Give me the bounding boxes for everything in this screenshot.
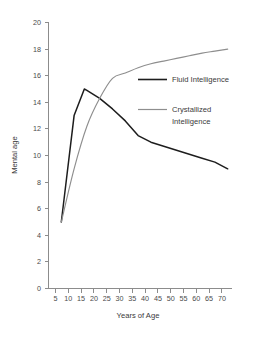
y-tick-label: 10 [33,151,41,160]
figure-container: 20 18 16 14 12 10 8 6 4 2 0 [0,0,267,340]
x-tick-label: 65 [205,294,213,303]
x-tick-label: 5 [54,294,58,303]
y-tick-label: 2 [37,257,41,266]
y-tick-label: 6 [37,204,41,213]
y-tick-label: 18 [33,45,41,54]
x-tick-label: 55 [180,294,188,303]
y-axis-title: Mental age [10,136,19,174]
x-tick-label: 40 [141,294,149,303]
y-tick-label: 4 [37,231,41,240]
line-chart: 20 18 16 14 12 10 8 6 4 2 0 [0,0,267,340]
y-tick-label: 20 [33,18,41,27]
x-tick-label: 20 [90,294,98,303]
legend: Fluid Intelligence Crystallized Intellig… [138,75,229,126]
y-axis-ticks [45,23,49,289]
x-tick-label: 70 [218,294,226,303]
x-tick-label: 15 [77,294,85,303]
legend-label-crystallized-line1: Crystallized [172,105,211,114]
x-tick-label: 45 [154,294,162,303]
x-tick-label: 50 [167,294,175,303]
x-tick-label: 35 [128,294,136,303]
x-axis-tick-labels: 5 10 15 20 25 30 35 40 45 50 55 60 65 70 [54,294,226,303]
y-axis-tick-labels: 20 18 16 14 12 10 8 6 4 2 0 [33,18,41,293]
x-tick-label: 25 [103,294,111,303]
y-tick-label: 12 [33,124,41,133]
x-tick-label: 60 [192,294,200,303]
y-tick-label: 14 [33,98,41,107]
y-tick-label: 8 [37,178,41,187]
y-tick-label: 0 [37,284,41,293]
y-tick-label: 16 [33,71,41,80]
cropped-caption-strip [0,331,267,340]
x-axis-title: Years of Age [117,311,160,320]
x-tick-label: 10 [64,294,72,303]
legend-label-crystallized-line2: Intelligence [172,117,210,126]
x-axis-ticks [56,289,222,293]
legend-label-fluid: Fluid Intelligence [172,75,229,84]
x-tick-label: 30 [116,294,124,303]
